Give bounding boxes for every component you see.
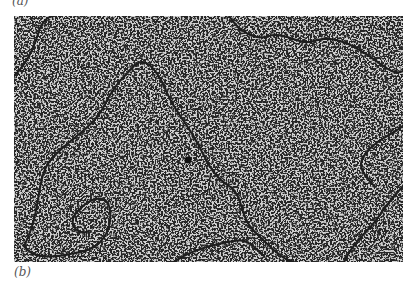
micrograph-image [14,16,403,262]
panel-a-label: (a) [12,0,29,8]
panel-b-label: (b) [14,265,31,279]
electron-micrograph [14,16,403,262]
